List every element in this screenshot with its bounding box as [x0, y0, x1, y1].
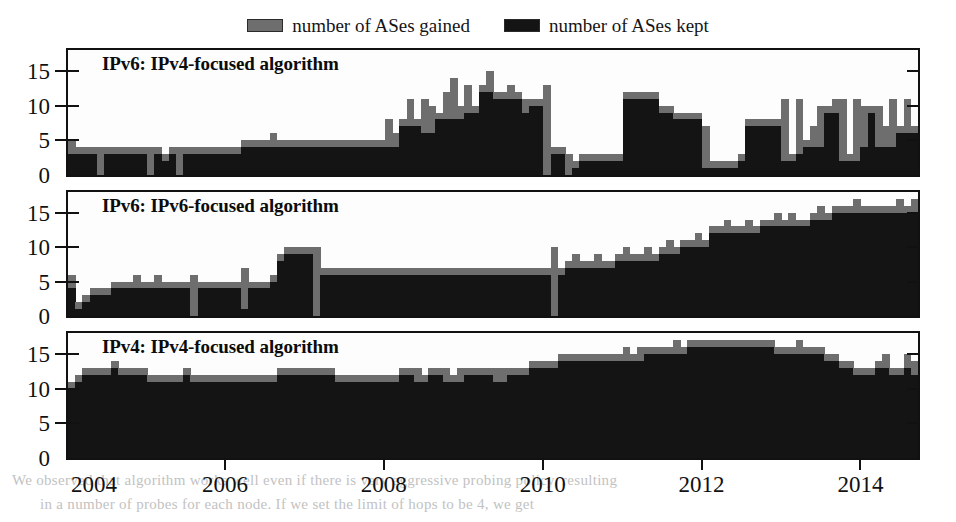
y-tick-label: 10 — [0, 94, 50, 117]
bar-segment-gained — [817, 347, 825, 354]
bar-segment-gained — [767, 340, 775, 347]
bar-segment-gained — [111, 361, 119, 368]
y-tick-label: 5 — [0, 129, 50, 152]
panel-ipv4-ipv4-focused: IPv4: IPv4-focused algorithm — [66, 331, 920, 460]
bar-segment-gained — [911, 126, 919, 133]
legend-swatch-gained — [247, 19, 283, 32]
bar-segment-gained — [140, 368, 148, 375]
y-tick-inner — [68, 246, 79, 248]
x-tick-label: 2012 — [679, 473, 725, 496]
panel-ipv6-ipv4-focused: IPv6: IPv4-focused algorithm — [66, 48, 920, 177]
bar-segment-gained — [666, 106, 674, 113]
y-tick-right — [907, 105, 918, 107]
x-tick-label: 2010 — [520, 473, 566, 496]
bar-segment-gained — [183, 368, 191, 375]
bar-segment-gained — [832, 354, 840, 361]
y-tick — [55, 139, 66, 141]
bar-segment-gained — [911, 361, 919, 375]
bar-segment-gained — [781, 99, 789, 161]
y-tick — [55, 212, 66, 214]
y-tick-inner — [68, 212, 79, 214]
legend-item-gained: number of ASes gained — [247, 16, 470, 35]
y-tick-inner — [68, 353, 79, 355]
y-tick-label: 15 — [0, 342, 50, 365]
y-tick — [55, 105, 66, 107]
bar-segment-gained — [515, 92, 523, 99]
bar-segment-gained — [154, 147, 162, 154]
x-tick — [224, 460, 226, 470]
x-tick-label: 2006 — [202, 473, 248, 496]
bar-segment-gained — [651, 92, 659, 99]
legend-label-gained: number of ASes gained — [292, 16, 470, 35]
y-tick-inner — [68, 70, 79, 72]
y-tick — [55, 422, 66, 424]
bar-segment-gained — [486, 71, 494, 92]
y-tick-right — [907, 388, 918, 390]
x-tick — [383, 460, 385, 470]
chart-legend: number of ASes gained number of ASes kep… — [0, 14, 956, 36]
x-tick — [542, 460, 544, 470]
panel-ipv6-ipv6-focused: IPv6: IPv6-focused algorithm — [66, 190, 920, 318]
bar-segment-gained — [839, 99, 847, 161]
y-tick — [55, 281, 66, 283]
panel-title-2: IPv4: IPv4-focused algorithm — [102, 336, 339, 358]
bar — [911, 361, 919, 458]
y-tick-label: 5 — [0, 270, 50, 293]
bleed-text: in a number of probes for each node. If … — [40, 496, 534, 513]
y-tick-inner — [68, 139, 79, 141]
bar-segment-gained — [882, 354, 890, 368]
y-tick-right — [907, 353, 918, 355]
y-tick-inner — [68, 105, 79, 107]
y-tick-label: 10 — [0, 236, 50, 259]
x-tick — [701, 460, 703, 470]
y-tick — [55, 246, 66, 248]
y-tick-label: 0 — [0, 305, 50, 328]
y-tick-label: 0 — [0, 447, 50, 470]
legend-label-kept: number of ASes kept — [549, 16, 709, 35]
bar-segment-gained — [846, 361, 854, 368]
legend-item-kept: number of ASes kept — [504, 16, 709, 35]
y-tick-right — [907, 281, 918, 283]
bar-segment-gained — [327, 368, 335, 375]
y-tick — [55, 353, 66, 355]
bar — [911, 199, 919, 316]
y-tick-inner — [68, 388, 79, 390]
y-tick-right — [907, 70, 918, 72]
y-tick-label: 10 — [0, 377, 50, 400]
y-tick — [55, 70, 66, 72]
bar — [911, 126, 919, 175]
bar-segment-gained — [695, 113, 703, 120]
bar-segment-gained — [911, 199, 919, 213]
y-tick-right — [907, 246, 918, 248]
panel-title-1: IPv6: IPv6-focused algorithm — [102, 195, 339, 217]
legend-swatch-kept — [504, 19, 540, 32]
x-tick-label: 2008 — [361, 473, 407, 496]
y-tick-inner — [68, 422, 79, 424]
x-tick-label: 2004 — [71, 473, 117, 496]
x-tick — [859, 460, 861, 470]
panel-title-0: IPv6: IPv4-focused algorithm — [102, 53, 339, 75]
y-tick-label: 15 — [0, 201, 50, 224]
y-tick — [55, 388, 66, 390]
figure-root: raphical distribution of theervers and r… — [0, 0, 956, 522]
bar-segment-kept — [911, 213, 919, 316]
y-tick-right — [907, 139, 918, 141]
y-tick-right — [907, 422, 918, 424]
bar-segment-gained — [558, 147, 566, 154]
y-tick-inner — [68, 281, 79, 283]
y-tick-label: 0 — [0, 164, 50, 187]
x-tick-label: 2014 — [837, 473, 883, 496]
y-tick-label: 5 — [0, 412, 50, 435]
y-tick-right — [907, 212, 918, 214]
y-tick-label: 15 — [0, 59, 50, 82]
